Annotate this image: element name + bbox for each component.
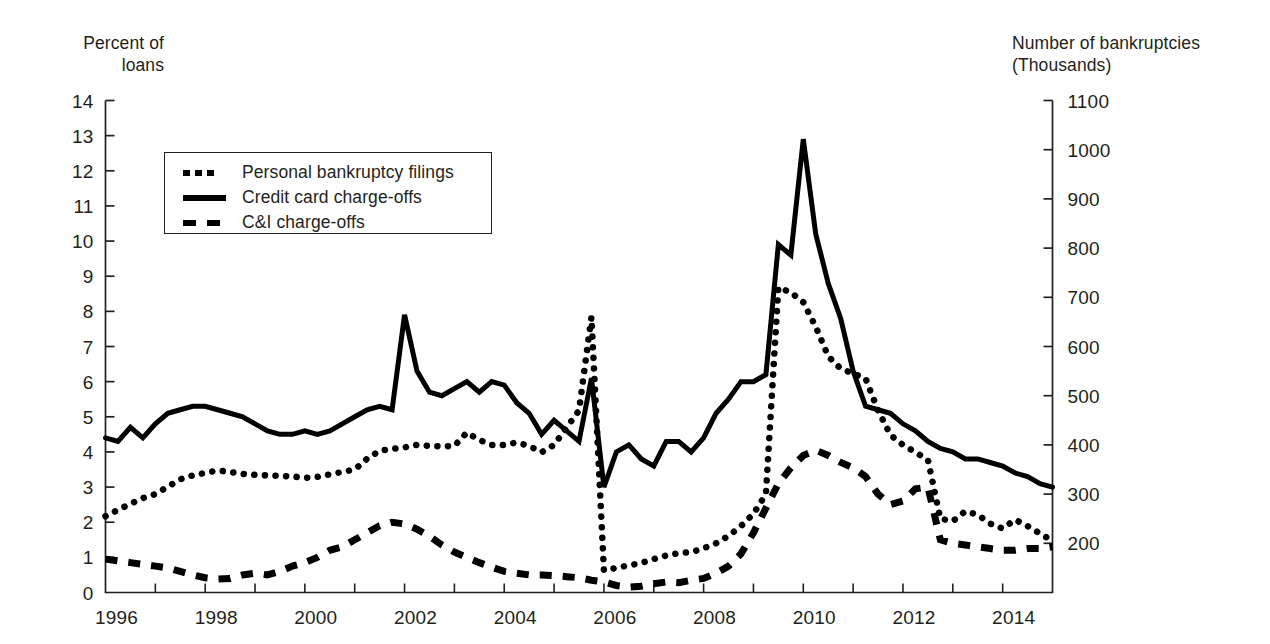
- legend-label: Personal bankruptcy filings: [242, 162, 454, 183]
- left-tick-label: 5: [38, 408, 94, 427]
- x-tick-label: 2010: [769, 608, 859, 627]
- legend-item: Credit card charge-offs: [181, 185, 491, 209]
- x-tick-label: 2006: [570, 608, 660, 627]
- right-tick-label: 300: [1068, 485, 1148, 504]
- left-tick-label: 0: [38, 584, 94, 603]
- right-axis-ticks: [1044, 101, 1053, 544]
- legend-label: C&I charge-offs: [242, 212, 365, 233]
- x-tick-label: 2004: [470, 608, 560, 627]
- left-tick-label: 3: [38, 478, 94, 497]
- right-tick-label: 700: [1068, 288, 1148, 307]
- left-tick-label: 9: [38, 267, 94, 286]
- x-tick-label: 2002: [371, 608, 461, 627]
- legend-item: C&I charge-offs: [181, 210, 491, 234]
- legend-swatch-solid-icon: [181, 190, 231, 204]
- legend-swatch-dotted-icon: [181, 165, 231, 179]
- x-tick-label: 1998: [171, 608, 261, 627]
- right-tick-label: 800: [1068, 239, 1148, 258]
- right-tick-label: 600: [1068, 338, 1148, 357]
- x-tick-label: 2012: [869, 608, 959, 627]
- right-tick-label: 400: [1068, 436, 1148, 455]
- left-tick-label: 6: [38, 373, 94, 392]
- left-tick-label: 12: [38, 162, 94, 181]
- right-tick-label: 1100: [1068, 92, 1148, 111]
- legend-item: Personal bankruptcy filings: [181, 160, 491, 184]
- left-tick-label: 1: [38, 548, 94, 567]
- legend-label: Credit card charge-offs: [242, 187, 422, 208]
- x-axis-ticks: [155, 584, 1002, 593]
- x-tick-label: 2008: [670, 608, 760, 627]
- left-tick-label: 13: [38, 127, 94, 146]
- x-tick-label: 2014: [969, 608, 1059, 627]
- left-tick-label: 14: [38, 92, 94, 111]
- right-tick-label: 900: [1068, 190, 1148, 209]
- legend-swatch-dashed-icon: [181, 215, 231, 229]
- x-tick-label: 2000: [271, 608, 361, 627]
- left-tick-label: 11: [38, 197, 94, 216]
- left-tick-label: 7: [38, 338, 94, 357]
- chart-legend: Personal bankruptcy filings Credit card …: [164, 152, 492, 234]
- x-tick-label: 1996: [72, 608, 162, 627]
- series-line-dashed: [106, 450, 1053, 587]
- left-tick-label: 10: [38, 232, 94, 251]
- left-tick-label: 8: [38, 302, 94, 321]
- left-axis-ticks: [106, 101, 115, 558]
- right-tick-label: 200: [1068, 534, 1148, 553]
- left-tick-label: 4: [38, 443, 94, 462]
- chart-figure: Percent of loans Number of bankruptcies …: [0, 0, 1270, 644]
- left-tick-label: 2: [38, 513, 94, 532]
- right-tick-label: 1000: [1068, 141, 1148, 160]
- right-tick-label: 500: [1068, 387, 1148, 406]
